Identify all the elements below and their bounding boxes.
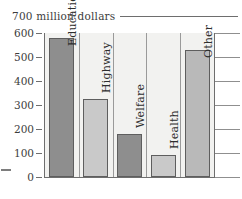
- annotation-leader-line: [120, 16, 238, 17]
- y-axis-tick-label: 300: [0, 100, 34, 111]
- y-axis-tick-mark: [36, 153, 42, 154]
- annotation-label: 700 million dollars: [12, 10, 115, 22]
- y-axis-tick-mark: [36, 57, 42, 58]
- slot-divider: [180, 33, 181, 177]
- slot-divider: [79, 33, 80, 177]
- y-axis-tick-mark: [36, 33, 42, 34]
- bar-health: [151, 155, 176, 177]
- bar-other: [185, 50, 210, 177]
- y-axis-tick-mark: [36, 81, 42, 82]
- left-edge-dash: [1, 169, 11, 171]
- y-axis-tick-label: 500: [0, 52, 34, 63]
- bar-label-health: Health: [168, 111, 181, 150]
- bar-label-education: Education: [66, 0, 79, 46]
- chart-annotation-700: 700 million dollars: [0, 8, 242, 24]
- y-axis-tick-mark: [36, 129, 42, 130]
- plot-area: [44, 33, 215, 178]
- y-axis-tick-label: 0: [0, 172, 34, 183]
- bar-label-welfare: Welfare: [134, 84, 147, 128]
- bar-label-other: Other: [202, 25, 215, 58]
- bar-education: [49, 38, 74, 177]
- y-axis-tick-mark: [36, 105, 42, 106]
- y-axis-tick-label: 400: [0, 76, 34, 87]
- y-axis-tick-mark: [36, 177, 42, 178]
- bar-highway: [83, 99, 108, 177]
- bar-label-highway: Highway: [100, 42, 113, 93]
- bar-welfare: [117, 134, 142, 177]
- bar-chart: 700 million dollars 6005004003002001000 …: [0, 0, 242, 199]
- y-axis-tick-label: 600: [0, 28, 34, 39]
- y-axis-tick-label: 100: [0, 148, 34, 159]
- y-axis-tick-label: 200: [0, 124, 34, 135]
